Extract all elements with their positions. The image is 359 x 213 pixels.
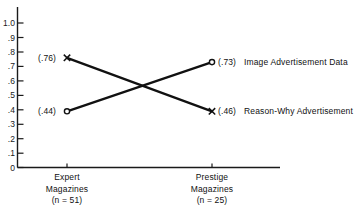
y-tick-label-0-4: .4 — [0, 105, 15, 115]
chart-figure: 1.0 .9 .8 .7 .6 .5 .4 .3 .2 .1 0 (.76) (… — [0, 0, 359, 213]
point-value-label-044: (.44) — [38, 106, 56, 116]
y-tick-label-0-5: .5 — [0, 90, 15, 100]
y-tick-label-0-8: .8 — [0, 47, 15, 57]
category-sample-size: (n = 25) — [152, 195, 272, 207]
category-sample-size: (n = 51) — [7, 195, 127, 207]
category-name-line-2: Magazines — [7, 184, 127, 196]
y-tick-label-0-9: .9 — [0, 33, 15, 43]
category-name-line-2: Magazines — [152, 184, 272, 196]
point-value-label-076: (.76) — [38, 53, 56, 63]
category-name-line-1: Expert — [7, 172, 127, 184]
y-tick-label-1-0: 1.0 — [0, 18, 15, 28]
legend-label-reason-why: Reason-Why Advertisement — [244, 106, 353, 116]
y-tick-label-0-6: .6 — [0, 76, 15, 86]
data-point-marker-044[interactable] — [64, 109, 69, 114]
y-tick-label-0-7: .7 — [0, 61, 15, 71]
y-tick-label-0-3: .3 — [0, 119, 15, 129]
point-value-label-073: (.73) — [218, 57, 236, 67]
data-point-marker-073[interactable] — [209, 60, 214, 65]
x-category-label-expert-magazines: Expert Magazines (n = 51) — [7, 172, 127, 207]
point-value-label-046: (.46) — [218, 106, 236, 116]
y-tick-label-0-0: 0 — [0, 163, 15, 173]
legend-label-image-advertisement: Image Advertisement Data — [244, 57, 348, 67]
y-axis-ticks — [18, 23, 24, 168]
category-name-line-1: Prestige — [152, 172, 272, 184]
x-category-label-prestige-magazines: Prestige Magazines (n = 25) — [152, 172, 272, 207]
y-tick-label-0-2: .2 — [0, 134, 15, 144]
y-tick-label-0-1: .1 — [0, 148, 15, 158]
